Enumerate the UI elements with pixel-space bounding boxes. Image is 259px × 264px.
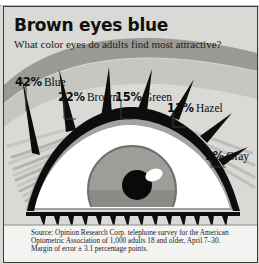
page-title: Brown eyes blue bbox=[14, 17, 168, 34]
callout-hazel-label: Hazel bbox=[196, 102, 223, 114]
callout-blue-label: Blue bbox=[44, 76, 66, 88]
callout-blue-value: 42% bbox=[15, 75, 42, 89]
lower-lid-line bbox=[26, 212, 240, 216]
callout-gray-value: 1% bbox=[205, 149, 224, 163]
callout-gray: 1%Gray bbox=[205, 147, 249, 163]
callout-hazel: 11%Hazel bbox=[167, 99, 223, 115]
callout-hazel-value: 11% bbox=[167, 101, 194, 115]
callout-brown-label: Brown bbox=[87, 91, 118, 103]
source-line-3: Margin of error ± 3.1 percentage points. bbox=[31, 245, 253, 253]
source-note: Source: Opinion Research Corp. telephone… bbox=[31, 229, 253, 254]
callout-blue: 42%Blue bbox=[15, 73, 66, 89]
page-subtitle: What color eyes do adults find most attr… bbox=[14, 39, 221, 50]
callout-brown-value: 22% bbox=[58, 90, 85, 104]
infographic-eye-color-poll: Brown eyes blue What color eyes do adult… bbox=[0, 0, 259, 264]
infographic-frame: Brown eyes blue What color eyes do adult… bbox=[3, 6, 258, 263]
callout-brown: 22%Brown bbox=[58, 88, 118, 104]
callout-green-value: 15% bbox=[115, 90, 142, 104]
callout-green: 15%Green bbox=[115, 88, 172, 104]
callout-gray-label: Gray bbox=[226, 150, 249, 162]
